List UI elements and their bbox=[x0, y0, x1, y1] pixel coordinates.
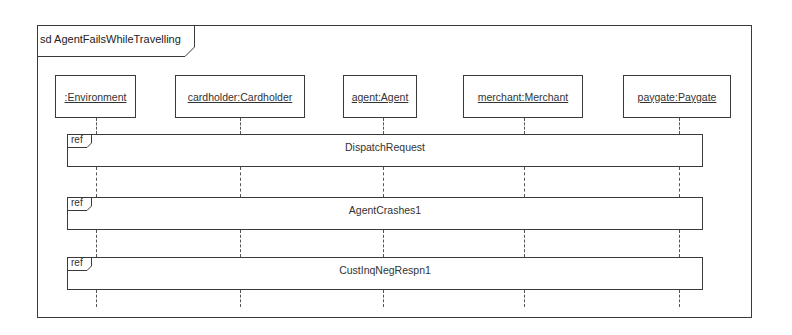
lifeline-label: merchant:Merchant bbox=[478, 91, 568, 103]
lifeline-dash-environment bbox=[96, 290, 97, 307]
ref-agent-crashes[interactable]: ref AgentCrashes1 bbox=[67, 197, 703, 230]
lifeline-dash-cardholder bbox=[240, 230, 241, 257]
ref-cust-inq-neg-respn[interactable]: ref CustInqNegRespn1 bbox=[67, 257, 703, 290]
ref-name: CustInqNegRespn1 bbox=[68, 264, 702, 276]
ref-dispatch-request[interactable]: ref DispatchRequest bbox=[67, 134, 703, 167]
lifeline-agent[interactable]: agent:Agent bbox=[343, 75, 417, 118]
lifeline-dash-paygate bbox=[679, 230, 680, 257]
lifeline-dash-merchant bbox=[524, 290, 525, 307]
frame-title-tab: sd AgentFailsWhileTravelling bbox=[37, 25, 195, 57]
lifeline-dash-merchant bbox=[524, 167, 525, 197]
ref-name: DispatchRequest bbox=[68, 141, 702, 153]
lifeline-cardholder[interactable]: cardholder:Cardholder bbox=[175, 75, 305, 118]
lifeline-dash-cardholder bbox=[240, 118, 241, 134]
lifeline-label: paygate:Paygate bbox=[638, 91, 717, 103]
lifeline-dash-environment bbox=[96, 167, 97, 197]
lifeline-dash-paygate bbox=[679, 290, 680, 307]
lifeline-dash-cardholder bbox=[240, 290, 241, 307]
lifeline-dash-merchant bbox=[524, 118, 525, 134]
lifeline-dash-agent bbox=[383, 290, 384, 307]
lifeline-label: cardholder:Cardholder bbox=[188, 91, 292, 103]
lifeline-dash-agent bbox=[383, 118, 384, 134]
lifeline-merchant[interactable]: merchant:Merchant bbox=[463, 75, 583, 118]
lifeline-dash-environment bbox=[96, 118, 97, 134]
lifeline-dash-cardholder bbox=[240, 167, 241, 197]
lifeline-dash-paygate bbox=[679, 167, 680, 197]
lifeline-paygate[interactable]: paygate:Paygate bbox=[623, 75, 731, 118]
lifeline-label: agent:Agent bbox=[352, 91, 409, 103]
lifeline-dash-paygate bbox=[679, 118, 680, 134]
ref-name: AgentCrashes1 bbox=[68, 204, 702, 216]
lifeline-environment[interactable]: :Environment bbox=[55, 75, 136, 118]
lifeline-dash-merchant bbox=[524, 230, 525, 257]
lifeline-dash-environment bbox=[96, 230, 97, 257]
lifeline-dash-agent bbox=[383, 167, 384, 197]
diagram-title: sd AgentFailsWhileTravelling bbox=[40, 33, 181, 45]
lifeline-label: :Environment bbox=[65, 91, 127, 103]
lifeline-dash-agent bbox=[383, 230, 384, 257]
